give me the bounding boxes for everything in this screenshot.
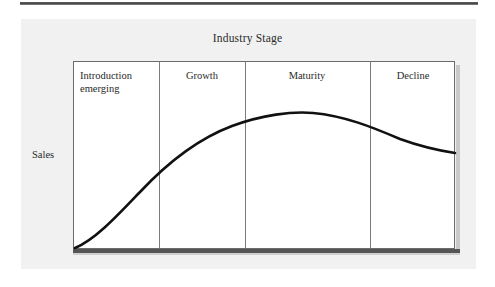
y-axis-label-sales: Sales xyxy=(32,149,54,160)
stage-divider-2 xyxy=(245,62,246,248)
top-horizontal-rule xyxy=(20,2,478,5)
plot-drop-shadow xyxy=(456,65,460,253)
figure-page: Industry Stage Sales Introduction emergi… xyxy=(0,0,495,287)
plot-baseline-shadow xyxy=(73,253,460,255)
stage-label-2: Maturity xyxy=(248,70,366,83)
stage-divider-3 xyxy=(370,62,371,248)
stage-label-3: Decline xyxy=(374,70,452,83)
stage-label-1: Growth xyxy=(162,70,242,83)
chart-title: Industry Stage xyxy=(0,32,495,44)
stage-divider-1 xyxy=(159,62,160,248)
stage-label-0: Introduction emerging xyxy=(80,70,156,95)
